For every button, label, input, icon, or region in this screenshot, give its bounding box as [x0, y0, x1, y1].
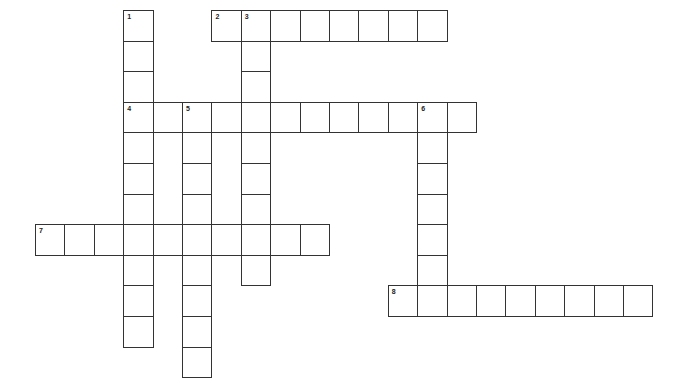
crossword-cell[interactable]: 1 [123, 10, 153, 42]
crossword-cell[interactable] [447, 102, 477, 134]
crossword-cell[interactable] [329, 10, 359, 42]
clue-number: 5 [186, 105, 190, 112]
crossword-cell[interactable] [123, 255, 153, 287]
crossword-cell[interactable] [64, 224, 94, 256]
crossword-cell[interactable] [329, 102, 359, 134]
crossword-cell[interactable] [182, 255, 212, 287]
crossword-cell[interactable] [417, 132, 447, 164]
crossword-cell[interactable] [182, 285, 212, 317]
crossword-cell[interactable] [270, 102, 300, 134]
crossword-cell[interactable] [300, 102, 330, 134]
crossword-cell[interactable]: 5 [182, 102, 212, 134]
crossword-cell[interactable] [182, 316, 212, 348]
crossword-cell[interactable] [241, 255, 271, 287]
crossword-cell[interactable] [182, 224, 212, 256]
crossword-cell[interactable] [417, 224, 447, 256]
clue-number: 3 [245, 13, 249, 20]
crossword-cell[interactable] [300, 224, 330, 256]
crossword-cell[interactable] [300, 10, 330, 42]
crossword-cell[interactable] [505, 285, 535, 317]
crossword-cell[interactable] [270, 224, 300, 256]
crossword-cell[interactable] [123, 285, 153, 317]
crossword-cell[interactable] [241, 194, 271, 226]
crossword-cell[interactable] [211, 102, 241, 134]
crossword-cell[interactable] [94, 224, 124, 256]
crossword-cell[interactable] [123, 224, 153, 256]
crossword-cell[interactable] [358, 10, 388, 42]
crossword-cell[interactable] [623, 285, 653, 317]
clue-number: 8 [392, 288, 396, 295]
crossword-cell[interactable]: 3 [241, 10, 271, 42]
clue-number: 4 [127, 105, 131, 112]
crossword-cell[interactable] [241, 71, 271, 103]
crossword-cell[interactable] [241, 132, 271, 164]
crossword-cell[interactable] [153, 224, 183, 256]
crossword-cell[interactable] [476, 285, 506, 317]
crossword-cell[interactable] [241, 41, 271, 73]
crossword-cell[interactable] [417, 255, 447, 287]
crossword-cell[interactable] [388, 10, 418, 42]
crossword-cell[interactable] [594, 285, 624, 317]
clue-number: 2 [215, 13, 219, 20]
crossword-cell[interactable] [417, 194, 447, 226]
crossword-cell[interactable]: 2 [211, 10, 241, 42]
crossword-cell[interactable] [153, 102, 183, 134]
crossword-cell[interactable] [123, 71, 153, 103]
crossword-cell[interactable]: 6 [417, 102, 447, 134]
crossword-cell[interactable] [182, 132, 212, 164]
crossword-cell[interactable] [182, 163, 212, 195]
crossword-cell[interactable] [123, 316, 153, 348]
crossword-cell[interactable] [270, 10, 300, 42]
crossword-cell[interactable]: 4 [123, 102, 153, 134]
crossword-cell[interactable]: 7 [35, 224, 65, 256]
crossword-cell[interactable] [123, 194, 153, 226]
crossword-cell[interactable] [358, 102, 388, 134]
crossword-cell[interactable] [241, 224, 271, 256]
crossword-cell[interactable] [388, 102, 418, 134]
crossword-cell[interactable] [241, 102, 271, 134]
crossword-cell[interactable] [211, 224, 241, 256]
crossword-cell[interactable]: 8 [388, 285, 418, 317]
clue-number: 6 [421, 105, 425, 112]
crossword-cell[interactable] [417, 163, 447, 195]
crossword-cell[interactable] [241, 163, 271, 195]
crossword-cell[interactable] [123, 132, 153, 164]
crossword-cell[interactable] [123, 41, 153, 73]
clue-number: 7 [39, 227, 43, 234]
crossword-cell[interactable] [123, 163, 153, 195]
crossword-cell[interactable] [535, 285, 565, 317]
crossword-cell[interactable] [417, 10, 447, 42]
crossword-cell[interactable] [564, 285, 594, 317]
crossword-cell[interactable] [447, 285, 477, 317]
crossword-cell[interactable] [182, 194, 212, 226]
crossword-cell[interactable] [182, 347, 212, 378]
clue-number: 1 [127, 13, 131, 20]
crossword-cell[interactable] [417, 285, 447, 317]
